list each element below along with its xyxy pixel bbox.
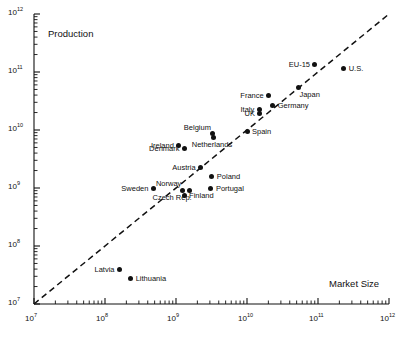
data-point-label: Germany xyxy=(278,101,309,110)
data-point-label: EU-15 xyxy=(289,60,310,69)
data-point-marker xyxy=(296,85,301,90)
data-point-label: Denmark xyxy=(149,144,179,153)
data-point-label: Norway xyxy=(156,179,181,188)
y-tick-label: 1011 xyxy=(8,66,23,75)
data-point-label: Portugal xyxy=(216,184,244,193)
x-tick-label: 1011 xyxy=(309,314,324,323)
data-point-label: Belgium xyxy=(184,123,211,132)
y-tick-label: 108 xyxy=(8,240,20,249)
y-tick-label: 1012 xyxy=(8,8,23,17)
data-point-label: UK xyxy=(245,109,255,118)
data-point-label: U.S. xyxy=(349,64,364,73)
data-point-label: Czech Rep. xyxy=(153,193,192,202)
data-point-marker xyxy=(128,276,133,281)
data-point-label: Netherlands xyxy=(192,140,232,149)
x-axis-label: Market Size xyxy=(329,278,379,289)
x-tick-label: 1010 xyxy=(238,314,253,323)
data-point-label: Sweden xyxy=(121,184,148,193)
data-point-label: Finland xyxy=(189,191,214,200)
x-tick-label: 1012 xyxy=(380,314,395,323)
y-tick-label: 1010 xyxy=(8,124,23,133)
x-tick-label: 108 xyxy=(96,314,108,323)
x-tick-label: 109 xyxy=(167,314,179,323)
data-point-label: France xyxy=(240,91,263,100)
data-point-label: Latvia xyxy=(94,265,114,274)
data-point-marker xyxy=(245,129,250,134)
data-point-marker xyxy=(182,146,187,151)
data-point-label: Austria xyxy=(172,163,195,172)
data-point-marker xyxy=(117,267,122,272)
y-axis-label: Production xyxy=(48,28,93,39)
y-tick-label: 109 xyxy=(8,182,20,191)
data-point-label: Japan xyxy=(299,90,319,99)
data-point-marker xyxy=(198,165,203,170)
data-point-label: Lithuania xyxy=(136,274,166,283)
scatter-plot-figure: Production Market Size 10710810910101011… xyxy=(0,0,401,339)
data-point-label: Spain xyxy=(252,127,271,136)
data-point-label: Poland xyxy=(217,172,240,181)
y-tick-label: 107 xyxy=(8,298,20,307)
x-tick-label: 107 xyxy=(25,314,37,323)
data-point-marker xyxy=(208,186,213,191)
